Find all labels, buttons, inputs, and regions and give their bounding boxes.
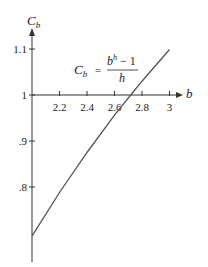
y-tick-label: 1.1 [13,43,27,55]
x-tick-label: 3 [167,101,173,113]
x-axis-label: b [186,86,193,101]
x-tick-label: 2.2 [53,101,67,113]
x-axis-arrow-icon [176,92,183,98]
chart: 2.22.42.62.83.8.911.1 Cb b Cb = bh − 1 h [0,0,208,267]
y-axis-label: Cb [27,13,41,30]
axes [29,28,183,262]
y-tick-label: .9 [19,135,28,147]
series-line [32,50,170,237]
y-tick-label: 1 [22,89,28,101]
x-tick-label: 2.4 [80,101,94,113]
svg-text:bh − 1: bh − 1 [107,53,136,68]
y-tick-label: .8 [19,181,28,193]
svg-text:Cb: Cb [74,62,88,79]
tick-labels: 2.22.42.62.83.8.911.1 [13,43,173,193]
y-axis-arrow-icon [29,28,35,36]
svg-text:=: = [95,64,101,76]
x-tick-label: 2.8 [135,101,149,113]
x-tick-label: 2.6 [108,101,122,113]
formula-annotation: Cb = bh − 1 h [74,53,138,85]
svg-text:h: h [119,71,125,85]
